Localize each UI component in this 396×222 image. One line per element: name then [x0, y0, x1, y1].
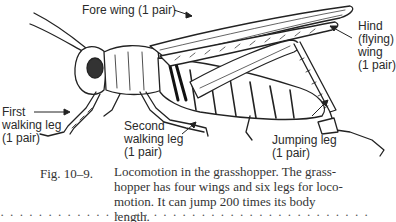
label-fore-wing: Fore wing (1 pair) — [82, 4, 176, 17]
label-first-walking-leg: First walking leg (1 pair) — [2, 106, 61, 145]
cutoff-body-text: · · · · · · · · · · · · · · · · · · · · … — [0, 214, 396, 222]
label-hind-wing: Hind (flying) wing (1 pair) — [358, 20, 396, 72]
grasshopper-figure: Fore wing (1 pair) Hind (flying) wing (1… — [0, 0, 396, 160]
label-second-walking-leg: Second walking leg (1 pair) — [124, 120, 183, 159]
figure-number: Fig. 10–9. — [40, 166, 93, 182]
label-jumping-leg: Jumping leg (1 pair) — [272, 134, 337, 160]
